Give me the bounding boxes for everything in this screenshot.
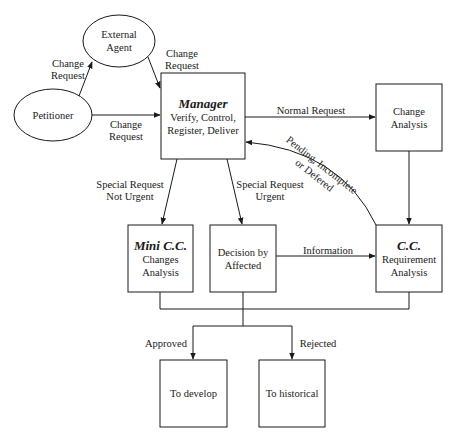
label-text: Approved [145,338,187,349]
label-line2: Request [160,60,204,72]
label-line1: Change [46,58,90,70]
label-line1: Special Request [96,179,164,191]
change-analysis-line1: Change [393,105,425,118]
merge-line [160,292,409,309]
label-line2: Request [104,131,148,143]
branch-to-develop [193,326,243,359]
label-normal-request: Normal Request [272,105,350,117]
decision-line1: Decision by [218,246,268,259]
manager-line2: Register, Deliver [167,124,238,137]
label-special-urgent: Special Request Urgent [236,179,304,203]
to-historical-node: To historical [259,360,325,427]
manager-title: Manager [178,96,227,111]
mini-cc-line1: Changes [142,253,178,266]
label-petitioner-to-manager: Change Request [104,119,148,143]
label-external-to-manager: Change Request [160,48,204,72]
change-analysis-line2: Analysis [391,118,428,131]
to-develop-label: To develop [170,387,217,400]
mini-cc-title: Mini C.C. [134,238,187,253]
label-information: Information [298,245,358,257]
decision-node: Decision by Affected [210,225,276,292]
label-text: Rejected [300,338,337,349]
label-line2: Request [46,70,90,82]
to-develop-node: To develop [160,360,227,427]
to-historical-label: To historical [266,387,319,400]
label-text: Information [303,245,353,256]
cc-node: C.C. Requirement Analysis [376,225,442,292]
label-line1: Change [104,119,148,131]
external-agent-line2: Agent [106,41,132,54]
label-line1: Special Request [236,179,304,191]
decision-line2: Affected [225,259,262,272]
mini-cc-line2: Analysis [142,266,179,279]
label-line1: Change [160,48,204,60]
label-rejected: Rejected [297,338,339,350]
external-agent-line1: External [101,28,137,41]
external-agent-node: External Agent [83,15,155,67]
cc-line2: Analysis [391,266,428,279]
change-analysis-node: Change Analysis [376,84,442,151]
petitioner-label: Petitioner [33,109,74,122]
label-line2: Not Urgent [96,191,164,203]
branch-to-historical [243,326,292,359]
manager-node: Manager Verify, Control, Register, Deliv… [161,73,245,159]
label-special-not-urgent: Special Request Not Urgent [96,179,164,203]
label-text: Normal Request [277,105,346,116]
cc-title: C.C. [397,238,421,253]
label-line2: Urgent [236,191,304,203]
manager-line1: Verify, Control, [170,111,236,124]
label-petitioner-to-external: Change Request [46,58,90,82]
petitioner-node: Petitioner [14,89,92,141]
cc-line1: Requirement [382,253,436,266]
label-approved: Approved [142,338,190,350]
mini-cc-node: Mini C.C. Changes Analysis [128,225,193,292]
edge-manager-to-mini-cc [162,159,177,224]
